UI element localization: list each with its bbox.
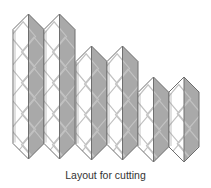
column-2 [42, 14, 78, 175]
column-1 [11, 14, 47, 175]
column-5 [136, 77, 172, 176]
column-4 [105, 46, 141, 176]
figure-caption: Layout for cutting [0, 169, 211, 181]
column-3 [74, 46, 110, 176]
cutting-layout-diagram [0, 0, 211, 188]
